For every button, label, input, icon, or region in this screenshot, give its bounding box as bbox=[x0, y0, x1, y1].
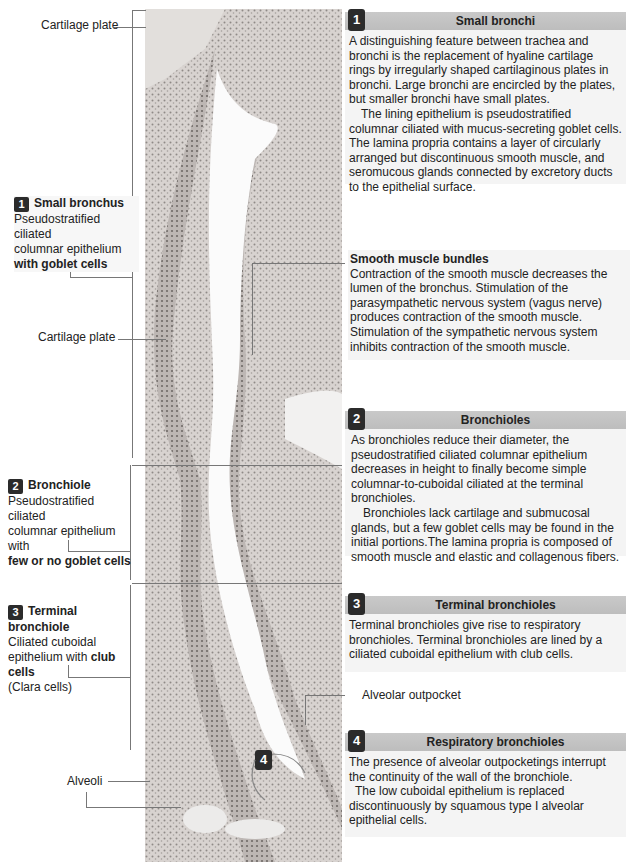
label-small-bronchus: 1Small bronchus Pseudostratified ciliate… bbox=[14, 196, 139, 272]
panel-small-bronchi: 1 Small bronchi A distinguishing feature… bbox=[345, 12, 626, 184]
panel-paragraph: Contraction of the smooth muscle decreas… bbox=[350, 267, 607, 354]
panel-terminal-bronchioles: 3 Terminal bronchioles Terminal bronchio… bbox=[345, 596, 626, 672]
label-terminal-bronchiole: 3Terminal bronchiole Ciliated cuboidal e… bbox=[8, 604, 138, 695]
label-line: Pseudostratified ciliated bbox=[14, 212, 139, 242]
label-line-bold: with goblet cells bbox=[14, 257, 107, 271]
panel-paragraph: The lining epithelium is pseudostratifie… bbox=[349, 107, 622, 195]
histology-image bbox=[145, 9, 342, 862]
panel-paragraph: The low cuboidal epithelium is replaced … bbox=[349, 784, 622, 828]
label-bronchiole: 2Bronchiole Pseudostratified ciliated co… bbox=[8, 478, 133, 569]
number-badge: 2 bbox=[8, 479, 23, 494]
panel-title: Respiratory bronchioles bbox=[345, 733, 626, 751]
number-badge: 4 bbox=[348, 730, 365, 752]
panel-header: 2 Bronchioles bbox=[345, 411, 626, 429]
divider-bronchiole-top bbox=[132, 465, 342, 466]
leader-line-cartilage-top bbox=[114, 27, 146, 28]
label-line-bold: few or no goblet cells bbox=[8, 554, 131, 568]
panel-bronchioles: 2 Bronchioles As bronchioles reduce thei… bbox=[345, 411, 626, 556]
panel-paragraph: Terminal bronchioles give rise to respir… bbox=[349, 618, 622, 662]
leader-line-smooth-muscle-drop bbox=[252, 263, 253, 355]
leader-line-alveoli-2-drop bbox=[86, 792, 87, 807]
label-alveoli: Alveoli bbox=[67, 774, 102, 789]
number-badge: 1 bbox=[348, 9, 365, 31]
label-title: Bronchiole bbox=[28, 478, 91, 492]
divider-terminal-top bbox=[132, 583, 342, 584]
bracket-top-tick bbox=[132, 10, 146, 11]
micrograph-bronchial-tree bbox=[145, 9, 342, 862]
panel-title: Small bronchi bbox=[345, 12, 626, 30]
label-alveolar-outpocket: Alveolar outpocket bbox=[362, 688, 461, 703]
label-line: Ciliated cuboidal bbox=[8, 635, 138, 650]
number-badge: 1 bbox=[14, 197, 29, 212]
label-cartilage-plate-top: Cartilage plate bbox=[41, 18, 118, 33]
leader-line-alveoli bbox=[108, 781, 150, 782]
number-badge: 3 bbox=[8, 605, 23, 620]
leader-line-smooth-muscle bbox=[252, 263, 345, 264]
number-badge: 3 bbox=[348, 593, 365, 615]
label-cartilage-plate-mid: Cartilage plate bbox=[38, 330, 115, 345]
label-line: columnar epithelium bbox=[14, 242, 139, 257]
leader-line-alveolar-outpocket bbox=[305, 695, 345, 696]
panel-paragraph: The presence of alveolar outpocketings i… bbox=[349, 755, 622, 784]
label-title: Small bronchus bbox=[34, 196, 124, 210]
label-line: Pseudostratified ciliated bbox=[8, 494, 133, 524]
panel-smooth-muscle: Smooth muscle bundles Contraction of the… bbox=[348, 250, 630, 360]
panel-title: Terminal bronchioles bbox=[345, 596, 626, 614]
panel-header: 3 Terminal bronchioles bbox=[345, 596, 626, 614]
panel-paragraph: Bronchioles lack cartilage and submucosa… bbox=[351, 506, 622, 564]
leader-line-cartilage-mid bbox=[118, 339, 166, 340]
panel-respiratory-bronchioles: 4 Respiratory bronchioles The presence o… bbox=[345, 733, 626, 837]
number-badge: 2 bbox=[348, 408, 365, 430]
panel-title: Bronchioles bbox=[345, 411, 626, 429]
leader-line-alveoli-2 bbox=[86, 807, 181, 808]
panel-header: 1 Small bronchi bbox=[345, 12, 626, 30]
panel-paragraph: A distinguishing feature between trachea… bbox=[349, 34, 622, 107]
leader-line-alveolar-outpocket-drop bbox=[305, 695, 306, 725]
panel-paragraph: As bronchioles reduce their diameter, th… bbox=[351, 433, 622, 506]
label-line: (Clara cells) bbox=[8, 680, 138, 695]
label-line: epithelium with bbox=[8, 650, 91, 664]
leader-line-small-bronchus bbox=[70, 277, 132, 278]
label-line: columnar epithelium with bbox=[8, 524, 133, 554]
panel-header: 4 Respiratory bronchioles bbox=[345, 733, 626, 751]
panel-title: Smooth muscle bundles bbox=[350, 252, 628, 267]
curved-arrow-icon bbox=[235, 748, 315, 808]
